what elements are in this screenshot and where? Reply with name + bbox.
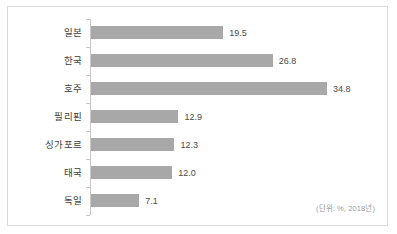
bar-row: 태국12.0 xyxy=(8,159,387,187)
bar-row: 싱가포르12.3 xyxy=(8,131,387,159)
axis-tick xyxy=(86,131,90,132)
axis-tick xyxy=(86,103,90,104)
category-label: 필리핀 xyxy=(8,103,82,131)
axis-tick xyxy=(86,159,90,160)
bar-value-label: 26.8 xyxy=(279,47,297,75)
bar[interactable] xyxy=(91,194,139,207)
category-label: 일본 xyxy=(8,19,82,47)
axis-tick xyxy=(86,19,90,20)
bar-row: 필리핀12.9 xyxy=(8,103,387,131)
category-label: 태국 xyxy=(8,159,82,187)
bar-row: 한국26.8 xyxy=(8,47,387,75)
chart-footnote: (단위: %, 2018년) xyxy=(316,202,375,213)
category-label: 싱가포르 xyxy=(8,131,82,159)
chart-frame: 일본19.5한국26.8호주34.8필리핀12.9싱가포르12.3태국12.0독… xyxy=(7,6,388,226)
bar[interactable] xyxy=(91,166,172,179)
category-label: 한국 xyxy=(8,47,82,75)
category-label: 독일 xyxy=(8,187,82,215)
axis-tick xyxy=(86,187,90,188)
bar-value-label: 12.9 xyxy=(184,103,202,131)
bar-value-label: 19.5 xyxy=(229,19,247,47)
bar[interactable] xyxy=(91,54,273,67)
bar-value-label: 12.0 xyxy=(178,159,196,187)
bar[interactable] xyxy=(91,110,178,123)
bar-value-label: 12.3 xyxy=(180,131,198,159)
bar-value-label: 34.8 xyxy=(333,75,351,103)
bar[interactable] xyxy=(91,26,223,39)
bar-value-label: 7.1 xyxy=(145,187,158,215)
bar[interactable] xyxy=(91,138,174,151)
bar-row: 호주34.8 xyxy=(8,75,387,103)
axis-tick xyxy=(86,75,90,76)
axis-tick xyxy=(86,47,90,48)
category-label: 호주 xyxy=(8,75,82,103)
bar[interactable] xyxy=(91,82,327,95)
plot-area: 일본19.5한국26.8호주34.8필리핀12.9싱가포르12.3태국12.0독… xyxy=(8,7,387,225)
bar-row: 일본19.5 xyxy=(8,19,387,47)
axis-tick xyxy=(86,215,90,216)
